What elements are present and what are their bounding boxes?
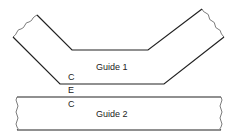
clearance-upper-c-label: C <box>68 72 75 82</box>
clearance-lower-c-label: C <box>68 99 75 109</box>
guide-2-right-break-line <box>220 97 222 130</box>
guide-1-bottom-edge <box>13 37 224 84</box>
edge-e-label: E <box>68 85 74 95</box>
guide-1-top-edge <box>37 9 202 50</box>
guide-2-label: Guide 2 <box>96 109 128 119</box>
guide-2-left-break-line <box>16 97 18 130</box>
guide-1-shape <box>13 9 224 84</box>
guide-1-label: Guide 1 <box>96 62 128 72</box>
guide-1-right-break-line <box>202 9 224 37</box>
guide-diagram: Guide 1 C E C Guide 2 <box>0 0 238 138</box>
guide-1-left-break-line <box>13 15 37 37</box>
